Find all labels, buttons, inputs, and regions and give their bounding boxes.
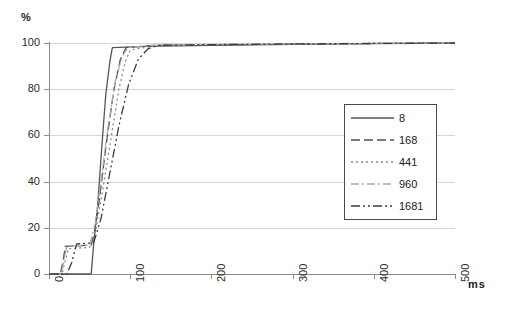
legend-label-8: 8 xyxy=(399,112,405,124)
legend-item-168[interactable]: 168 xyxy=(349,133,435,147)
legend-label-960: 960 xyxy=(399,178,417,190)
legend-swatch-1681 xyxy=(349,199,396,213)
legend-box: 81684419601681 xyxy=(344,104,437,220)
legend-swatch-168 xyxy=(349,133,396,147)
legend-label-441: 441 xyxy=(399,156,417,168)
legend-item-1681[interactable]: 1681 xyxy=(349,199,435,213)
legend-item-8[interactable]: 8 xyxy=(349,111,435,125)
legend-item-441[interactable]: 441 xyxy=(349,155,435,169)
legend-item-960[interactable]: 960 xyxy=(349,177,435,191)
legend-swatch-8 xyxy=(349,111,396,125)
legend-swatch-960 xyxy=(349,177,396,191)
chart-container: % ms 020406080100 0100200300400500 81684… xyxy=(0,0,507,320)
legend-label-1681: 1681 xyxy=(399,200,423,212)
legend-swatch-441 xyxy=(349,155,396,169)
legend-label-168: 168 xyxy=(399,134,417,146)
